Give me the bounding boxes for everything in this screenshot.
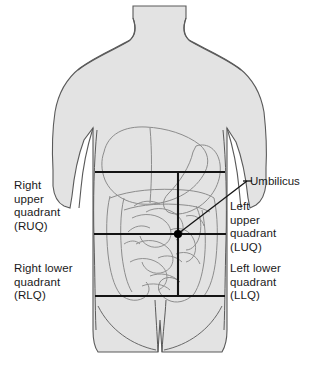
label-right-upper-quadrant: Right upper quadrant (RUQ) [14, 179, 60, 233]
label-left-lower-quadrant: Left lower quadrant (LLQ) [230, 262, 281, 303]
label-umbilicus: Umbilicus [250, 175, 300, 189]
umbilicus-point-marker [174, 230, 182, 238]
label-left-upper-quadrant: Left upper quadrant (LUQ) [230, 200, 276, 254]
label-right-lower-quadrant: Right lower quadrant (RLQ) [14, 262, 73, 303]
abdominal-quadrants-figure: Right upper quadrant (RUQ) Right lower q… [0, 0, 318, 370]
